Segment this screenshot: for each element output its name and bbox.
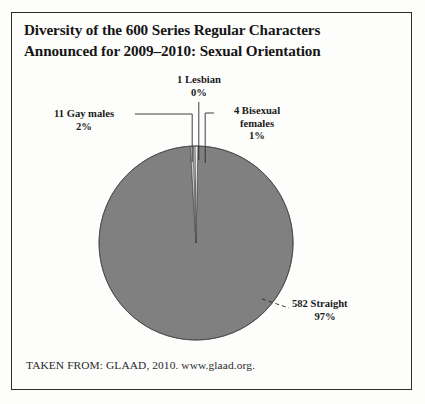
callout-bisexual-females-count: 4 Bisexual [215, 105, 299, 118]
callout-lesbian: 1 Lesbian 0% [149, 74, 249, 99]
pie-chart [0, 0, 425, 404]
callout-straight: 582 Straight 97% [292, 298, 384, 323]
source-note: TAKEN FROM: GLAAD, 2010. www.glaad.org. [26, 359, 255, 371]
callout-bisexual-females-group: females [215, 118, 299, 131]
callout-gay-males-count: 11 Gay males [34, 108, 134, 121]
callout-bisexual-females: 4 Bisexual females 1% [215, 105, 299, 143]
callout-straight-percent: 97% [292, 311, 358, 324]
callout-lesbian-count: 1 Lesbian [149, 74, 249, 87]
callout-bisexual-females-percent: 1% [215, 130, 299, 143]
callout-lesbian-percent: 0% [149, 87, 249, 100]
figure-container: Diversity of the 600 Series Regular Char… [0, 0, 425, 404]
callout-straight-count: 582 Straight [292, 298, 384, 311]
callout-gay-males: 11 Gay males 2% [34, 108, 134, 133]
callout-gay-males-percent: 2% [34, 121, 134, 134]
